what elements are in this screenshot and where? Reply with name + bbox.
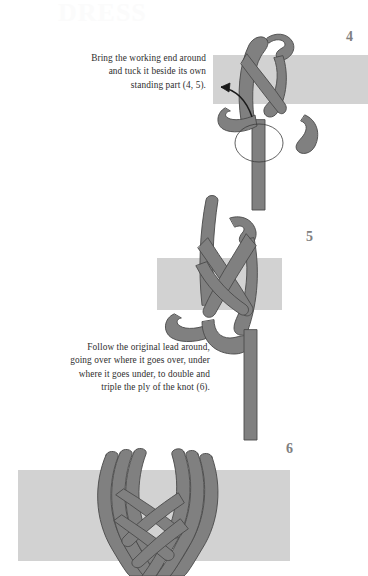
step-number-6: 6 [286, 441, 293, 457]
caption-steps-4-5: Bring the working end around and tuck it… [46, 52, 206, 92]
knot-illustration-step-4 [195, 20, 368, 210]
caption-line: and tuck it beside its own [46, 65, 206, 78]
knot-illustration-step-5 [150, 190, 330, 440]
watermark-text: DRESS [58, 0, 147, 28]
page-canvas: DRESS Bring the working end around and t… [0, 0, 368, 576]
caption-line: Bring the working end around [46, 52, 206, 65]
knot-illustration-step-6 [60, 445, 260, 576]
caption-line: standing part (4, 5). [46, 79, 206, 92]
